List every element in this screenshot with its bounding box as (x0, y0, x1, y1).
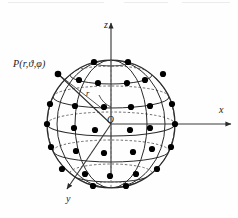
grid-dot (72, 103, 78, 109)
grid-dot (90, 183, 96, 189)
grid-dot (123, 183, 129, 189)
grid-dot (55, 71, 62, 78)
grid-dot (147, 125, 153, 131)
axis-label-y: y (66, 193, 70, 204)
grid-dot (130, 149, 136, 155)
grid-dot (101, 104, 107, 110)
axis-label-x: x (219, 104, 223, 115)
origin-label-O: O (107, 115, 114, 125)
grid-dot (169, 101, 175, 107)
grid-dot (168, 144, 174, 150)
grid-dot (147, 103, 153, 109)
grid-dot (127, 127, 133, 133)
grid-dot (73, 148, 79, 154)
grid-dot (160, 71, 166, 77)
spherical-coordinate-figure: P(r,ϑ,φ) z x y O r (0, 0, 238, 218)
grid-dot (142, 77, 148, 83)
grid-dot (133, 171, 139, 177)
grid-dot (47, 101, 53, 107)
grid-dot (107, 173, 113, 179)
grid-dot (59, 166, 65, 172)
grid-dot (44, 121, 50, 127)
radius-label-r: r (86, 88, 89, 98)
grid-dot (82, 171, 88, 177)
grid-dot (91, 59, 97, 65)
grid-dot (149, 146, 155, 152)
grid-dot (71, 125, 77, 131)
grid-dot (48, 144, 54, 150)
point-label-P: P(r,ϑ,φ) (13, 58, 46, 69)
grid-dot (154, 166, 160, 172)
grid-dot (76, 77, 82, 83)
grid-dot (92, 127, 98, 133)
axis-label-z: z (104, 19, 108, 30)
grid-dot (95, 80, 101, 86)
grid-dot (124, 80, 130, 86)
grid-dot (101, 150, 107, 156)
sphere-diagram-canvas (0, 0, 238, 218)
grid-dot (125, 59, 131, 65)
grid-dot (128, 104, 134, 110)
grid-dot (172, 121, 178, 127)
